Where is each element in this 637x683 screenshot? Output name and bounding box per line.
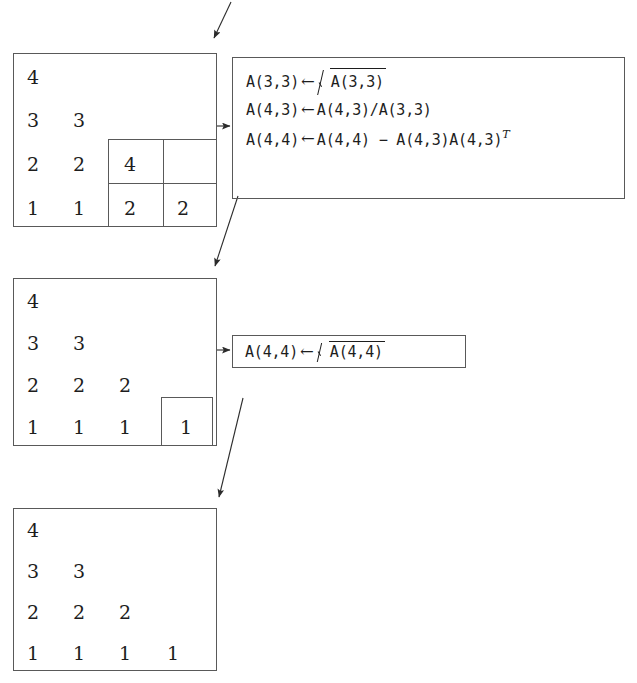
matrix-2-cell-r2c0: 2 [23,376,43,395]
sqrt-icon: A(4,4) [316,340,385,363]
matrix-2-cell-r2c1: 2 [69,376,89,395]
matrix-1-cell-r3c1: 1 [69,199,89,218]
arrow-formula2-to-matrix3 [219,398,243,497]
arrow-entry-top [214,2,231,38]
matrix-3-cell-r1c1: 3 [69,562,89,581]
formula-3-lhs: A(4,4) [246,130,299,148]
formula-line-2: A(4,3)←A(4,3)/A(3,3) [246,96,612,124]
matrix-2-cell-r3c1: 1 [69,418,89,437]
matrix-2-cell-r2c2: 2 [115,376,135,395]
formula-1-arrow: ← [299,72,317,91]
matrix-3-cell-r2c0: 2 [23,603,43,622]
matrix-3-cell-r3c0: 1 [23,644,43,663]
matrix-2-cell-r3c2: 1 [115,418,135,437]
matrix-1-cell-r1c0: 3 [23,111,43,130]
formula-2-arrow: ← [299,100,317,119]
matrix-1-cell-r2c1: 2 [69,155,89,174]
formula-box-2: A(4,4)←A(4,4) [232,335,466,368]
matrix-1-cell-r1c1: 3 [69,111,89,130]
matrix-2-highlight-block [161,397,213,446]
formula-box-1: A(3,3)←A(3,3) A(4,3)←A(4,3)/A(3,3) A(4,4… [232,57,625,199]
matrix-3-cell-r3c1: 1 [69,644,89,663]
subgrid-horizontal-divider [109,183,216,184]
formula-line-3: A(4,4)←A(4,4) − A(4,3)A(4,3)T [246,125,612,154]
matrix-3-cell-r1c0: 3 [23,562,43,581]
matrix-1-cell-r3c0: 1 [23,199,43,218]
matrix-2-cell-r3c0: 1 [23,418,43,437]
matrix-1-cell-r2c0: 2 [23,155,43,174]
formula-2-lhs: A(4,3) [246,101,299,119]
matrix-2-cell-r1c1: 3 [69,334,89,353]
formula-4-lhs: A(4,4) [245,343,298,361]
matrix-3-cell-r2c2: 2 [115,603,135,622]
formula-3-transpose: T [502,128,509,141]
formula-4-arrow: ← [298,342,316,361]
matrix-2-cell-r1c0: 3 [23,334,43,353]
matrix-3-cell-r0c0: 4 [23,521,43,540]
matrix-2-cell-r0c0: 4 [23,292,43,311]
formula-line-1: A(3,3)←A(3,3) [246,67,612,96]
arrow-formula1-to-matrix2 [215,196,238,266]
sqrt-icon: A(3,3) [317,67,386,96]
matrix-1-highlight-block [108,139,217,227]
formula-line-4: A(4,4)←A(4,4) [245,340,455,363]
matrix-3-cell-r3c2: 1 [115,644,135,663]
formula-3-arrow: ← [299,129,317,148]
formula-4-radicand: A(4,4) [329,341,385,362]
formula-2-rhs: A(4,3)/A(3,3) [317,101,432,119]
matrix-3-cell-r2c1: 2 [69,603,89,622]
matrix-1-cell-r0c0: 4 [23,68,43,87]
matrix-3-cell-r3c3: 1 [163,644,183,663]
figure-canvas: 4 3 3 2 2 4 1 1 2 2 A(3,3)←A(3,3) A(4,3)… [0,0,637,683]
formula-1-lhs: A(3,3) [246,73,299,91]
formula-3-rhs: A(4,4) − A(4,3)A(4,3) [317,130,502,148]
formula-1-radicand: A(3,3) [330,68,386,96]
